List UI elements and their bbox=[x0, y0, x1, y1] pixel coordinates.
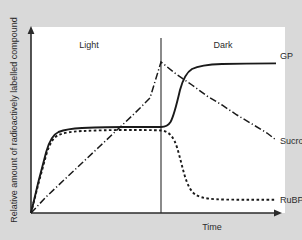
series-label-sucrose: Sucrose bbox=[280, 136, 302, 146]
dark-phase-label: Dark bbox=[213, 40, 233, 50]
x-axis-title: Time bbox=[202, 222, 222, 232]
series-label-rubp: RuBP bbox=[280, 195, 302, 205]
y-axis-title: Relative amount of radioactively labelle… bbox=[9, 17, 19, 223]
series-label-gp: GP bbox=[280, 51, 293, 61]
chart-canvas: Light Dark GP Sucrose RuBP Time Relative… bbox=[0, 0, 302, 240]
plot-area-background bbox=[31, 27, 285, 213]
chart-figure: Light Dark GP Sucrose RuBP Time Relative… bbox=[0, 0, 302, 240]
light-phase-label: Light bbox=[79, 40, 99, 50]
